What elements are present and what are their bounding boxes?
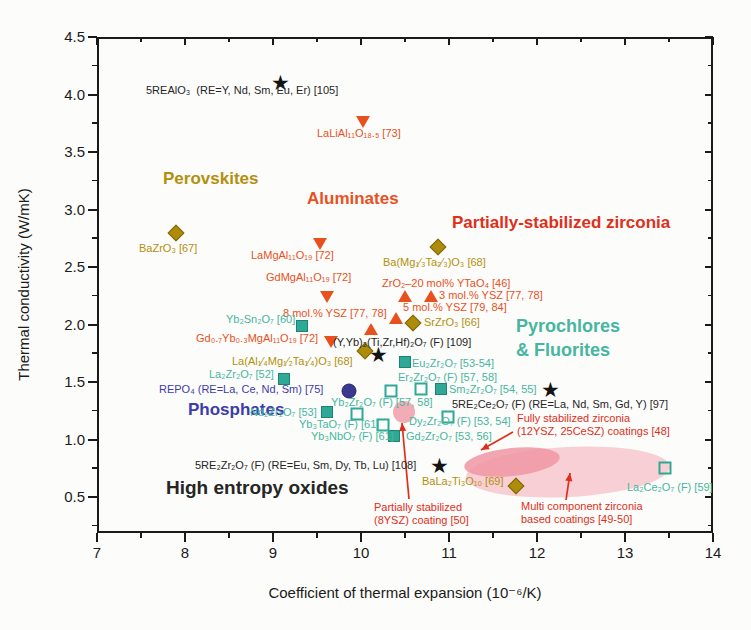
annotation-39: Multi component zirconia based coatings … [521, 500, 643, 526]
annotation-26: 5RE₂Ce₂O₇ (F) (RE=La, Nd, Sm, Gd, Y) [97… [452, 398, 668, 411]
annotation-34: 5RE₂Zr₂O₇ (F) (RE=Eu, Sm, Dy, Tb, Lu) [1… [195, 459, 416, 472]
y-major-tick-right [705, 439, 713, 441]
annotation-30: Dy₂Zr₂O₇ (F) [53, 54] [409, 415, 511, 428]
x-minor-tick-top [228, 37, 230, 42]
annotation-32: Yb₃NbO₇ (F) [61] [311, 430, 394, 443]
marker-square-filled-4-2 [399, 356, 411, 368]
figure-page: Coefficient of thermal expansion (10⁻⁶/K… [0, 0, 751, 630]
marker-square-filled-4-3 [435, 383, 447, 395]
x-major-tick-bottom [360, 533, 362, 542]
annotation-4: Partially-stabilized zirconia [452, 213, 670, 233]
y-major-tick-right [705, 36, 713, 38]
x-tick-label: 8 [170, 544, 200, 561]
annotation-35: High entropy oxides [166, 477, 349, 500]
y-minor-tick-right [708, 65, 713, 67]
x-minor-tick-bottom [492, 533, 494, 538]
annotation-21: La₂Zr₂O₇ [52] [209, 368, 274, 381]
annotation-13: Yb₂Sn₂O₇ [60] [226, 313, 295, 326]
x-major-tick-top [360, 37, 362, 45]
x-minor-tick-bottom [580, 533, 582, 538]
y-tick-label: 2.0 [49, 316, 85, 333]
annotation-3: Aluminates [307, 189, 399, 209]
x-minor-tick-top [492, 37, 494, 42]
y-minor-tick-right [708, 467, 713, 469]
annotation-17: Gd₀.₇Yb₀.₃MgAl₁₁O₁₉ [72] [196, 332, 318, 345]
y-major-tick-right [705, 324, 713, 326]
x-minor-tick-bottom [404, 533, 406, 538]
y-major-tick-left [88, 439, 97, 441]
marker-square-open-5-1 [414, 382, 427, 395]
y-major-tick-left [88, 496, 97, 498]
marker-triangle-up-2-2 [389, 312, 403, 324]
annotation-7: Ba(Mg₁⁄₃Ta₂⁄₃)O₃ [68] [383, 256, 486, 269]
y-major-tick-right [705, 151, 713, 153]
x-major-tick-bottom [536, 533, 538, 542]
x-minor-tick-top [316, 37, 318, 42]
y-minor-tick-right [708, 180, 713, 182]
annotation-36: BaLa₂Ti₃O₁₀ [69] [422, 475, 503, 488]
y-minor-tick-left [92, 295, 97, 297]
y-major-tick-right [705, 209, 713, 211]
x-minor-tick-bottom [140, 533, 142, 538]
x-minor-tick-top [140, 37, 142, 42]
x-tick-label: 7 [82, 544, 112, 561]
x-major-tick-top [536, 37, 538, 45]
y-minor-tick-left [92, 352, 97, 354]
annotation-23: REPO₄ (RE=La, Ce, Nd, Sm) [75] [159, 383, 323, 396]
y-major-tick-left [88, 266, 97, 268]
x-tick-label: 9 [258, 544, 288, 561]
y-major-tick-left [88, 151, 97, 153]
x-major-tick-top [448, 37, 450, 45]
y-minor-tick-left [92, 122, 97, 124]
y-axis-title: Thermal conductivity (W/mK) [15, 145, 32, 425]
y-minor-tick-left [92, 65, 97, 67]
y-minor-tick-right [708, 237, 713, 239]
x-tick-label: 14 [698, 544, 728, 561]
y-major-tick-right [705, 381, 713, 383]
marker-square-open-5-5 [658, 462, 671, 475]
marker-triangle-up-2-1 [424, 290, 438, 302]
y-minor-tick-left [92, 237, 97, 239]
y-major-tick-left [88, 36, 97, 38]
x-major-tick-top [712, 37, 714, 45]
annotation-2: Perovskites [163, 169, 258, 189]
y-major-tick-left [88, 94, 97, 96]
y-minor-tick-right [708, 352, 713, 354]
y-tick-label: 4.5 [49, 28, 85, 45]
x-tick-label: 11 [434, 544, 464, 561]
marker-square-filled-4-0 [296, 320, 308, 332]
x-major-tick-bottom [184, 533, 186, 542]
marker-triangle-up-2-0 [398, 290, 412, 302]
annotation-5: BaZrO₃ [67] [139, 242, 197, 255]
x-major-tick-bottom [448, 533, 450, 542]
annotation-19: La(Al₁⁄₄Mg₁⁄₂Ta₁⁄₄)O₃ [68] [232, 355, 353, 368]
y-major-tick-left [88, 381, 97, 383]
x-minor-tick-top [404, 37, 406, 42]
x-minor-tick-top [580, 37, 582, 42]
annotation-11: 5 mol.% YSZ [79, 84] [403, 301, 507, 314]
marker-star-0-2: ★ [541, 378, 560, 399]
annotation-16: & Fluorites [516, 340, 610, 362]
annotation-0: 5REAlO₃ (RE=Y, Nd, Sm, Eu, Er) [105] [146, 84, 338, 97]
y-tick-label: 4.0 [49, 86, 85, 103]
annotation-18: (Y,Yb)₂(Ti,Zr,Hf)₂O₇ (F) [109] [333, 336, 471, 349]
marker-triangle-down-1-2 [320, 291, 334, 303]
annotation-6: LaMgAl₁₁O₁₉ [72] [251, 249, 334, 262]
y-minor-tick-left [92, 467, 97, 469]
y-minor-tick-right [708, 295, 713, 297]
x-tick-label: 13 [610, 544, 640, 561]
y-tick-label: 2.5 [49, 258, 85, 275]
annotation-24: Sm₂Zr₂O₇ [54, 55] [449, 383, 537, 396]
x-major-tick-bottom [712, 533, 714, 542]
x-major-tick-bottom [272, 533, 274, 542]
y-major-tick-right [705, 266, 713, 268]
annotation-37: La₂Ce₂O₇ (F) [59] [627, 481, 713, 494]
y-tick-label: 0.5 [49, 488, 85, 505]
x-minor-tick-bottom [228, 533, 230, 538]
annotation-15: Pyrochlores [516, 316, 620, 338]
annotation-1: LaLiAl₁₁O₁₈.₅ [73] [317, 127, 401, 140]
y-major-tick-left [88, 324, 97, 326]
y-minor-tick-right [708, 525, 713, 527]
annotation-29: Fully stabilized zirconia (12YSZ, 25CeSZ… [517, 412, 670, 438]
y-major-tick-left [88, 209, 97, 211]
